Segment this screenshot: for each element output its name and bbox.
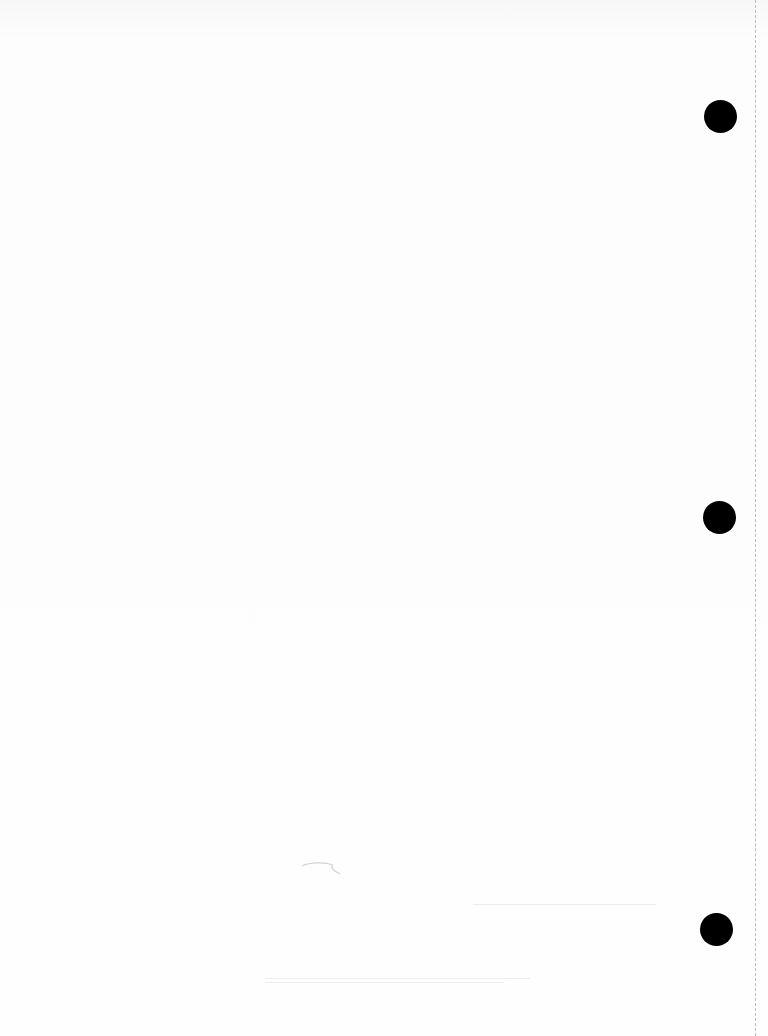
pencil-mark [300,860,350,880]
punch-hole-top [704,100,737,133]
punch-hole-bottom [700,913,733,946]
punch-hole-middle [703,501,736,534]
bleed-through-text [265,975,530,987]
perforated-edge [755,0,756,1036]
faint-line [473,904,656,905]
scanned-page [0,0,768,1036]
